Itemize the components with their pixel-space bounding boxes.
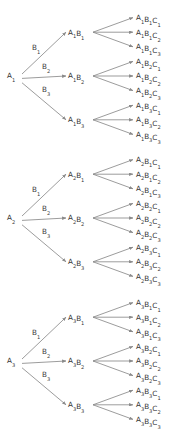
tree-group-2: A2B1B2B3A2B1A2B2A2B3A2B1C1A2B1C2A2B1C3A2… <box>7 155 161 286</box>
branch-label-2-2: B2 <box>42 204 50 215</box>
leaf-node-3-7: A3B3C1 <box>136 386 161 401</box>
branch-label-3-2: B2 <box>42 347 50 358</box>
leaf-node-1-3: A1B1C3 <box>136 42 161 57</box>
mid-node-1-1: A1B1 <box>68 28 84 41</box>
leaf-node-2-4: A2B2C1 <box>136 199 161 214</box>
edge-mid-1-to-leaf-1 <box>93 303 133 318</box>
leaf-node-2-2: A2B1C2 <box>136 170 161 185</box>
leaf-node-2-8: A2B3C2 <box>136 257 161 272</box>
leaf-node-1-2: A1B1C2 <box>136 28 161 43</box>
branch-label-3-1: B1 <box>32 328 40 339</box>
edge-mid-1-to-leaf-1 <box>93 18 133 33</box>
mid-node-2-1: A2B1 <box>68 170 84 183</box>
edge-mid-2-to-leaf-3 <box>93 218 133 233</box>
edge-mid-2-to-leaf-1 <box>93 203 133 218</box>
branch-label-2-1: B1 <box>32 185 40 196</box>
leaf-node-2-1: A2B1C1 <box>136 155 161 170</box>
mid-node-1-3: A1B3 <box>68 115 84 128</box>
tree-layers: A1B1B2B3A1B1A1B2A1B3A1B1C1A1B1C2A1B1C3A1… <box>7 13 161 429</box>
leaf-node-1-6: A1B2C3 <box>136 86 161 101</box>
edge-mid-1-to-leaf-3 <box>93 174 133 189</box>
edge-mid-2-to-leaf-3 <box>93 76 133 91</box>
leaf-node-2-9: A2B3C3 <box>136 272 161 287</box>
leaf-node-1-4: A1B2C1 <box>136 57 161 72</box>
root-node-2: A2 <box>7 213 15 224</box>
edge-mid-3-to-leaf-3 <box>93 262 133 277</box>
edge-mid-3-to-leaf-1 <box>93 105 133 120</box>
edge-mid-3-to-leaf-3 <box>93 120 133 135</box>
tree-group-1: A1B1B2B3A1B1A1B2A1B3A1B1C1A1B1C2A1B1C3A1… <box>7 13 161 144</box>
leaf-node-1-8: A1B3C2 <box>136 115 161 130</box>
branch-label-1-1: B1 <box>32 43 40 54</box>
mid-node-2-2: A2B2 <box>68 213 84 226</box>
branch-label-1-3: B3 <box>42 85 50 96</box>
leaf-node-1-5: A1B2C2 <box>136 71 161 86</box>
leaf-node-2-6: A2B2C3 <box>136 228 161 243</box>
tree-diagram-canvas: A1B1B2B3A1B1A1B2A1B3A1B1C1A1B1C2A1B1C3A1… <box>0 0 180 432</box>
edge-root-to-mid-2 <box>22 361 66 363</box>
leaf-node-1-1: A1B1C1 <box>136 13 161 28</box>
root-node-3: A3 <box>7 356 15 367</box>
edge-mid-1-to-leaf-3 <box>93 317 133 332</box>
leaf-node-3-1: A3B1C1 <box>136 298 161 313</box>
leaf-node-3-4: A3B2C1 <box>136 342 161 357</box>
mid-node-3-2: A3B2 <box>68 356 84 369</box>
tree-diagram: A1B1B2B3A1B1A1B2A1B3A1B1C1A1B1C2A1B1C3A1… <box>0 0 180 432</box>
edge-mid-3-to-leaf-1 <box>93 390 133 405</box>
leaf-node-3-6: A3B2C3 <box>136 371 161 386</box>
edge-mid-2-to-leaf-1 <box>93 346 133 361</box>
leaf-node-2-7: A2B3C1 <box>136 243 161 258</box>
edge-mid-3-to-leaf-1 <box>93 247 133 262</box>
branch-label-1-2: B2 <box>42 62 50 73</box>
branch-label-3-3: B3 <box>42 370 50 381</box>
leaf-node-2-5: A2B2C2 <box>136 213 161 228</box>
edge-root-to-mid-2 <box>22 76 66 78</box>
edge-mid-3-to-leaf-3 <box>93 405 133 420</box>
root-node-1: A1 <box>7 71 15 82</box>
branch-label-2-3: B3 <box>42 227 50 238</box>
edge-mid-2-to-leaf-1 <box>93 61 133 76</box>
leaf-node-3-8: A3B3C2 <box>136 400 161 415</box>
mid-node-2-3: A2B3 <box>68 257 84 270</box>
leaf-node-1-7: A1B3C1 <box>136 101 161 116</box>
edge-mid-1-to-leaf-1 <box>93 160 133 175</box>
mid-node-3-1: A3B1 <box>68 313 84 326</box>
leaf-node-2-3: A2B1C3 <box>136 184 161 199</box>
mid-node-3-3: A3B3 <box>68 400 84 413</box>
leaf-node-3-5: A3B2C2 <box>136 356 161 371</box>
tree-group-3: A3B1B2B3A3B1A3B2A3B3A3B1C1A3B1C2A3B1C3A3… <box>7 298 161 429</box>
leaf-node-3-3: A3B1C3 <box>136 327 161 342</box>
edge-mid-1-to-leaf-3 <box>93 32 133 47</box>
edge-root-to-mid-2 <box>22 218 66 220</box>
leaf-node-3-2: A3B1C2 <box>136 313 161 328</box>
leaf-node-3-9: A3B3C3 <box>136 415 161 430</box>
mid-node-1-2: A1B2 <box>68 71 84 84</box>
edge-mid-2-to-leaf-3 <box>93 361 133 376</box>
leaf-node-1-9: A1B3C3 <box>136 130 161 145</box>
